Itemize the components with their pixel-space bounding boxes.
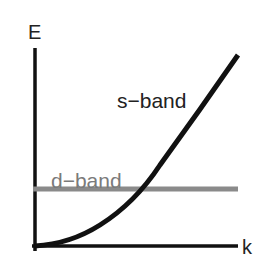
- band-diagram: E k s−band d−band: [0, 0, 266, 271]
- s-band-label: s−band: [117, 89, 186, 112]
- s-band-curve: [35, 55, 238, 246]
- d-band-label: d−band: [51, 169, 122, 192]
- x-axis-label: k: [242, 236, 253, 258]
- y-axis-label: E: [28, 21, 41, 43]
